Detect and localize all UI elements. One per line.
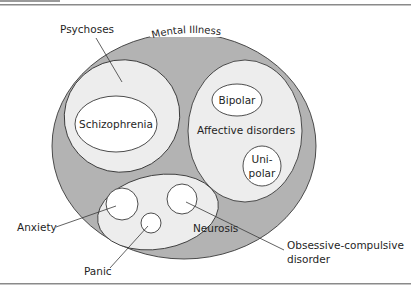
psychoses-label: Psychoses [60,23,114,35]
ocd-label-line2: disorder [287,253,331,265]
affective-disorders-label: Affective disorders [197,124,295,136]
anxiety-label: Anxiety [17,221,57,233]
neurosis-label: Neurosis [193,222,238,234]
bipolar-label: Bipolar [219,94,257,106]
unipolar-region [243,146,281,186]
ocd-region [167,184,197,214]
ocd-label-line1: Obsessive-compulsive [287,239,404,251]
bottom-rule [0,283,411,285]
panic-label: Panic [84,265,112,277]
unipolar-label-line1: Uni- [251,153,272,165]
unipolar-label-line2: polar [249,167,276,179]
schizophrenia-label: Schizophrenia [79,118,153,130]
top-rule [0,0,411,6]
mental-illness-diagram: Mental Illness Schizophrenia Psychoses B… [0,0,411,293]
anxiety-region [106,188,138,220]
